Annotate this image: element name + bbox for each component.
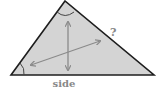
unknown-side-label: ?	[110, 26, 116, 39]
base-side-label: side	[53, 78, 76, 89]
triangle-diagram: ? side	[0, 0, 162, 89]
